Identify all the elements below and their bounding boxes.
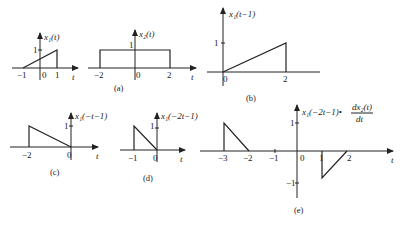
panel-e: x₁(−2t−1)• dx₂(t) dt 1 −1 −3 −2 −1 0 1 2… [200, 102, 394, 215]
tick-label-2: 2 [283, 74, 288, 84]
panel-d: x₁(−2t−1) 1 −1 0 t (d) [120, 111, 198, 183]
xvar: t [72, 72, 75, 82]
tick-label-y1: 1 [290, 118, 295, 128]
tick-label-neg2: −2 [22, 150, 32, 160]
tick-label-0: 0 [300, 153, 305, 163]
caption-d: (d) [143, 173, 153, 183]
panel-x1: x₁(t) 1 −1 0 1 t [12, 32, 78, 82]
tick-label-1: 1 [319, 153, 324, 163]
ylabel-e-den: dt [356, 114, 364, 124]
tick-label-yneg1: −1 [286, 178, 296, 188]
ylabel-x2: x₂(t) [138, 29, 155, 39]
ylabel-x1: x₁(t) [43, 32, 60, 42]
tick-label-0: 0 [153, 153, 158, 163]
signal-e-right [322, 151, 347, 178]
tick-label-2: 2 [347, 153, 352, 163]
xvar: t [391, 155, 394, 165]
caption-a: (a) [114, 83, 124, 93]
tick-label-0: 0 [67, 150, 72, 160]
ylabel-e-num: dx₂(t) [352, 102, 372, 112]
tick-label-neg3: −3 [218, 153, 228, 163]
ylabel-c: x₁(−t−1) [74, 111, 107, 121]
tick-label-2: 2 [167, 70, 172, 80]
tick-label-y1: 1 [214, 38, 219, 48]
tick-label-neg2: −2 [243, 153, 253, 163]
panel-b: x₁(t−1) 1 0 2 (b) [207, 8, 320, 103]
signal-b [223, 43, 286, 72]
xvar: t [191, 72, 194, 82]
caption-c: (c) [50, 167, 60, 177]
panel-c: x₁(−t−1) 1 −2 0 t (c) [10, 111, 107, 177]
tick-label-y1: 1 [64, 121, 69, 131]
tick-label-y1: 1 [150, 121, 155, 131]
ylabel-b: x₁(t−1) [228, 9, 255, 19]
tick-label-neg1: −1 [269, 153, 279, 163]
panel-x2: x₂(t) 1 −2 0 2 t (a) [88, 29, 196, 93]
tick-label-0: 0 [42, 70, 47, 80]
signal-e-left [224, 123, 249, 151]
tick-label-neg1: −1 [17, 70, 27, 80]
xvar: t [180, 154, 183, 164]
tick-label-neg2: −2 [94, 70, 104, 80]
caption-b: (b) [246, 93, 256, 103]
ylabel-e: x₁(−2t−1)• [301, 107, 342, 117]
ylabel-d: x₁(−2t−1) [160, 111, 198, 121]
tick-label-1: 1 [55, 70, 60, 80]
tick-label-neg1: −1 [128, 153, 138, 163]
tick-label-0: 0 [136, 70, 141, 80]
signal-diagram: x₁(t) 1 −1 0 1 t x₂(t) 1 −2 0 2 t (a) x₁… [0, 0, 400, 226]
tick-label-y1: 1 [129, 40, 134, 50]
tick-label-y1: 1 [33, 45, 38, 55]
tick-label-0: 0 [223, 74, 228, 84]
caption-e: (e) [294, 205, 304, 215]
xvar: t [96, 151, 99, 161]
